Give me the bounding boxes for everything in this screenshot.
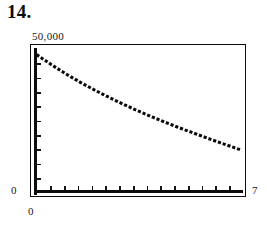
data-curve-layer — [31, 45, 245, 196]
figure-number-label: 14. — [7, 1, 31, 23]
x-axis-min-label: 0 — [28, 205, 34, 217]
plot-frame — [30, 44, 246, 197]
exponential-decay-curve — [37, 55, 241, 150]
x-axis-max-label: 7 — [252, 184, 258, 196]
y-axis-max-label: 50,000 — [32, 30, 64, 42]
y-axis-min-label: 0 — [11, 184, 17, 196]
figure-container: 14. 50,000 0 0 7 — [0, 0, 267, 230]
